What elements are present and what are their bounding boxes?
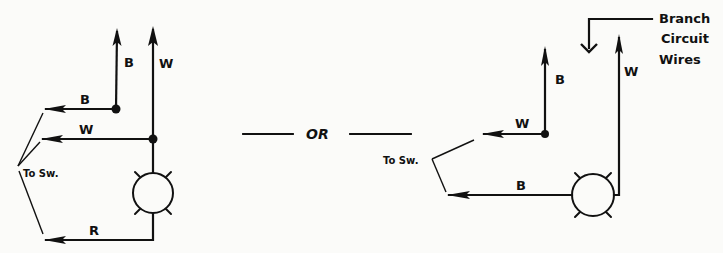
left-b-vertical-label: B bbox=[124, 55, 134, 70]
right-b-horizontal-label: B bbox=[516, 178, 526, 193]
right-w-vertical-wire bbox=[614, 34, 623, 195]
right-w-horizontal-wire bbox=[482, 130, 545, 138]
left-b-vertical-wire bbox=[113, 28, 122, 109]
left-w-vertical-label: W bbox=[159, 56, 173, 71]
left-w-horizontal-wire bbox=[41, 135, 153, 143]
left-w-vertical-wire bbox=[148, 26, 158, 172]
left-w-horizontal-label: W bbox=[79, 122, 93, 137]
right-diagram: Branch Circuit Wires B W W bbox=[383, 11, 710, 217]
light-fixture-icon bbox=[133, 172, 173, 214]
light-fixture-icon bbox=[572, 173, 614, 217]
right-b-vertical-label: B bbox=[555, 72, 565, 87]
left-b-horizontal-label: B bbox=[80, 92, 90, 107]
right-b-vertical-wire bbox=[541, 46, 549, 134]
left-r-label: R bbox=[89, 223, 99, 238]
branch-label-line2: Circuit bbox=[661, 31, 709, 46]
right-switch-bracket bbox=[432, 140, 474, 192]
right-b-horizontal-wire bbox=[447, 191, 572, 199]
or-label: OR bbox=[306, 126, 329, 142]
wiring-diagram: B W B W bbox=[0, 0, 723, 253]
right-w-vertical-label: W bbox=[624, 64, 638, 79]
junction-dot bbox=[541, 130, 549, 138]
left-diagram: B W B W bbox=[18, 26, 173, 244]
junction-dot bbox=[149, 135, 158, 144]
junction-dot bbox=[112, 105, 121, 114]
right-w-horizontal-label: W bbox=[515, 116, 529, 131]
right-to-switch-label: To Sw. bbox=[383, 155, 418, 166]
left-to-switch-label: To Sw. bbox=[23, 168, 58, 179]
branch-label-line1: Branch bbox=[659, 11, 710, 26]
branch-label-line3: Wires bbox=[659, 52, 701, 67]
or-separator: OR bbox=[243, 126, 411, 142]
